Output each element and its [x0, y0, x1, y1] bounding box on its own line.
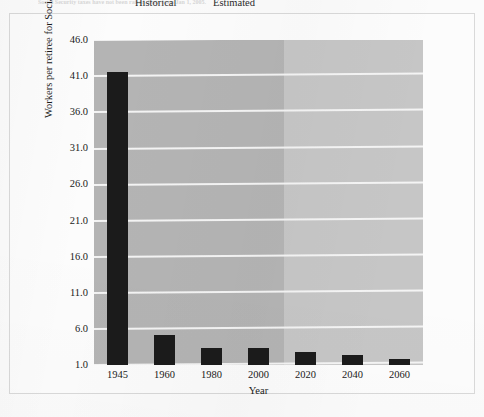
y-axis-tick-label: 6.0 — [42, 324, 88, 334]
y-axis-title: Workers per retiree for Social Security — [43, 0, 54, 118]
region-label-historical: Historical — [135, 0, 176, 8]
y-axis-tick-label: 21.0 — [42, 216, 88, 226]
x-axis-tick-label: 2040 — [330, 369, 376, 380]
x-axis: 1945196019802000202020402060 — [94, 369, 423, 385]
bar — [201, 348, 222, 365]
bar — [154, 335, 175, 365]
region-estimated — [284, 40, 423, 365]
bar — [342, 355, 363, 365]
x-axis-tick-label: 1980 — [189, 369, 235, 380]
x-axis-tick-label: 1945 — [95, 369, 141, 380]
y-axis-tick-label: 31.0 — [42, 143, 88, 153]
x-axis-tick-label: 1960 — [142, 369, 188, 380]
y-axis-tick-label: 1.0 — [42, 360, 88, 370]
bar — [248, 348, 269, 365]
x-axis-tick-label: 2020 — [283, 369, 329, 380]
figure-frame: 46.041.036.031.026.021.016.011.06.01.0 W… — [9, 13, 475, 394]
y-axis-tick-label: 11.0 — [42, 288, 88, 298]
x-axis-tick-label: 2060 — [377, 369, 423, 380]
bar — [107, 72, 128, 365]
x-axis-title: Year — [94, 385, 423, 396]
bar — [389, 359, 410, 366]
x-axis-tick-label: 2000 — [236, 369, 282, 380]
y-axis-tick-label: 16.0 — [42, 252, 88, 262]
y-axis: 46.041.036.031.026.021.016.011.06.01.0 — [30, 40, 88, 365]
y-axis-tick-label: 26.0 — [42, 179, 88, 189]
region-label-estimated: Estimated — [213, 0, 255, 8]
plot-area — [94, 40, 423, 365]
bar — [295, 352, 316, 365]
